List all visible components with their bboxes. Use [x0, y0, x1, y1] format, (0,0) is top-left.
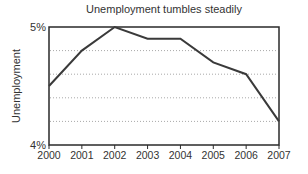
x-tick-label: 2001: [66, 149, 98, 162]
plot-frame: [49, 27, 279, 145]
x-tick-label: 2004: [164, 149, 196, 162]
x-tick-label: 2000: [33, 149, 65, 162]
plot-area: [0, 0, 308, 174]
y-tick-label: 5%: [0, 20, 46, 34]
unemployment-line-chart: Unemployment tumbles steadily Unemployme…: [0, 0, 308, 174]
x-tick-label: 2002: [99, 149, 131, 162]
x-tick-label: 2006: [230, 149, 262, 162]
x-tick-label: 2005: [197, 149, 229, 162]
x-tick-label: 2007: [263, 149, 295, 162]
x-tick-label: 2003: [132, 149, 164, 162]
